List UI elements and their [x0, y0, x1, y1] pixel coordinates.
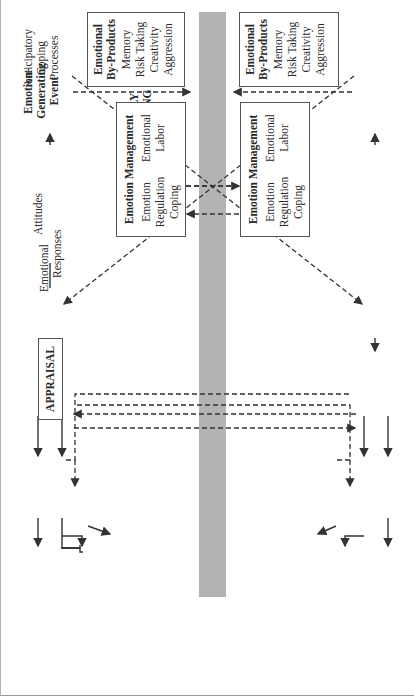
emotion-crossover-diagram: Anticipatory Coping Processes Emotion- G…: [0, 0, 414, 696]
item-coping: Coping: [292, 172, 305, 232]
family-appraisal-box: APPRAISAL: [38, 338, 63, 420]
family-byproducts-box: Emotional By-Products Memory Risk Taking…: [87, 12, 185, 87]
family-emotion-management-box: Emotion Management Emotion Regulation Co…: [116, 102, 186, 237]
item-coping: Coping: [168, 172, 181, 232]
item-aggression: Aggression: [162, 13, 175, 86]
byproducts-title: Emotional By-Products: [244, 13, 270, 86]
line: By-Products: [105, 13, 118, 86]
emotion-management-title: Emotion Management: [247, 103, 260, 236]
item-emotion: Emotion: [264, 172, 277, 232]
line: Event: [48, 51, 61, 131]
line: Generating: [35, 51, 48, 131]
item-regulation: Regulation: [278, 172, 291, 232]
line: Emotion-: [22, 51, 35, 131]
item-labor: Labor: [154, 108, 167, 168]
line: Responses: [51, 220, 64, 292]
item-memory: Memory: [120, 13, 133, 86]
work-emotion-management-box: Emotion Management Emotion Regulation Co…: [240, 102, 310, 237]
item-labor: Labor: [278, 108, 291, 168]
line: Emotional: [92, 13, 105, 86]
line: By-Products: [257, 13, 270, 86]
item-creativity: Creativity: [300, 13, 313, 86]
item-emotion: Emotion: [140, 172, 153, 232]
item-emotional: Emotional: [264, 108, 277, 168]
family-emotion-event: Emotion- Generating Event: [22, 51, 61, 131]
item-risk-taking: Risk Taking: [134, 13, 147, 86]
emotion-management-title: Emotion Management: [123, 103, 136, 236]
item-aggression: Aggression: [314, 13, 327, 86]
family-attitudes: Attitudes: [32, 184, 45, 244]
item-emotional: Emotional: [140, 108, 153, 168]
item-risk-taking: Risk Taking: [286, 13, 299, 86]
item-memory: Memory: [272, 13, 285, 86]
line: Emotional: [244, 13, 257, 86]
byproducts-title: Emotional By-Products: [92, 13, 118, 86]
work-byproducts-box: Emotional By-Products Memory Risk Taking…: [239, 12, 339, 87]
attitudes-label: Attitudes: [32, 193, 44, 235]
appraisal-label: APPRAISAL: [44, 346, 56, 412]
item-creativity: Creativity: [148, 13, 161, 86]
item-regulation: Regulation: [154, 172, 167, 232]
